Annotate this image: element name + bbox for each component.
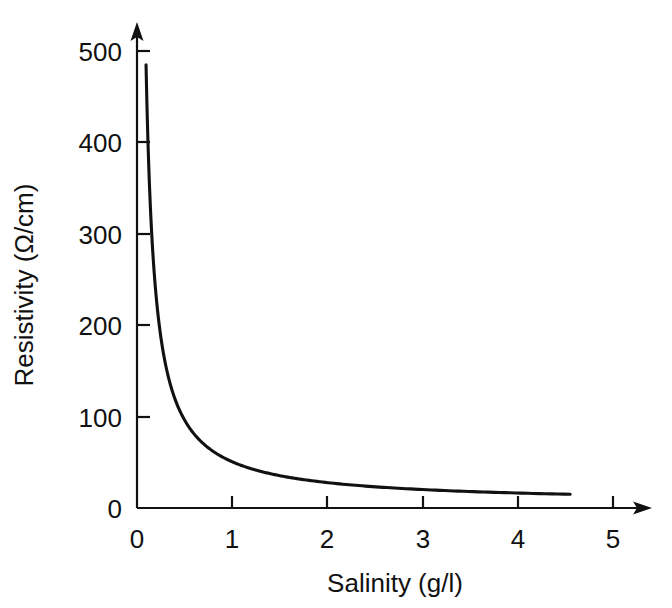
x-tick-label-4: 4 xyxy=(511,524,525,554)
x-axis-ticks xyxy=(232,496,613,508)
x-tick-label-2: 2 xyxy=(320,524,334,554)
y-tick-label-400: 400 xyxy=(79,128,122,158)
x-tick-label-5: 5 xyxy=(606,524,620,554)
x-axis-tick-labels: 0 1 2 3 4 5 xyxy=(130,524,620,554)
resistivity-curve xyxy=(146,65,570,495)
x-axis-title: Salinity (g/l) xyxy=(327,568,463,598)
y-tick-label-500: 500 xyxy=(79,37,122,67)
x-tick-label-0: 0 xyxy=(130,524,144,554)
chart-figure: 500 400 300 200 100 0 0 1 2 3 4 5 Salini… xyxy=(0,0,672,608)
x-tick-label-3: 3 xyxy=(416,524,430,554)
y-tick-label-300: 300 xyxy=(79,220,122,250)
y-tick-label-100: 100 xyxy=(79,403,122,433)
y-axis-tick-labels: 500 400 300 200 100 0 xyxy=(79,37,122,524)
y-tick-label-0: 0 xyxy=(108,494,122,524)
y-tick-label-200: 200 xyxy=(79,311,122,341)
resistivity-salinity-plot: 500 400 300 200 100 0 0 1 2 3 4 5 Salini… xyxy=(0,0,672,608)
x-tick-label-1: 1 xyxy=(225,524,239,554)
y-axis-title: Resistivity (Ω/cm) xyxy=(9,184,39,387)
